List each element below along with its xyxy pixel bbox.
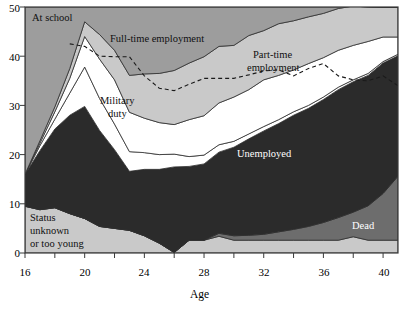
y-tick-0: 0 — [0, 247, 20, 259]
x-tick-16: 16 — [12, 266, 38, 278]
area-label-unemployed: Unemployed — [237, 148, 291, 160]
area-label-status-unknown-line2: unknown — [30, 225, 69, 237]
area-label-dead: Dead — [352, 220, 374, 232]
area-label-military-duty-line2: duty — [108, 108, 127, 120]
y-tick-40: 40 — [0, 51, 20, 63]
area-label-part-time-employment-line1: Part-time — [253, 49, 292, 61]
y-tick-20: 20 — [0, 149, 20, 161]
x-axis-title: Age — [190, 288, 209, 300]
area-label-status-unknown-line1: Status — [30, 212, 56, 224]
x-tick-20: 20 — [72, 266, 98, 278]
y-tick-50: 50 — [0, 2, 20, 14]
x-tick-28: 28 — [191, 266, 217, 278]
chart-container: 50 40 30 20 10 0 16 20 24 28 32 36 40 Ag… — [0, 0, 415, 313]
area-label-status-unknown-line3: or too young — [30, 238, 84, 250]
area-label-military-duty-line1: Military — [100, 95, 134, 107]
y-tick-30: 30 — [0, 100, 20, 112]
area-label-at-school: At school — [32, 12, 73, 24]
y-tick-10: 10 — [0, 198, 20, 210]
x-tick-36: 36 — [311, 266, 337, 278]
x-tick-32: 32 — [251, 266, 277, 278]
x-tick-40: 40 — [371, 266, 397, 278]
area-series-group — [25, 6, 398, 253]
area-label-full-time-employment: Full-time employment — [110, 33, 204, 45]
area-label-part-time-employment-line2: employment — [247, 62, 300, 74]
x-tick-24: 24 — [131, 266, 157, 278]
